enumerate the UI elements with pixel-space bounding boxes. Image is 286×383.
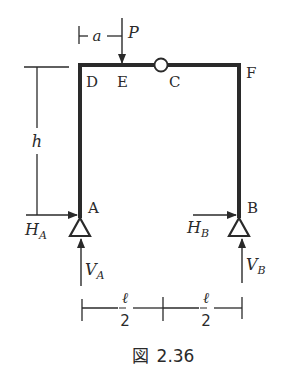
load-p-label: P xyxy=(127,23,139,42)
dim-span-den-left: 2 xyxy=(120,312,130,330)
dim-span-num-right: ℓ xyxy=(203,289,209,307)
caption-prefix: 図 xyxy=(132,346,149,366)
point-b-label: B xyxy=(247,199,258,217)
hinge-c-icon xyxy=(155,59,168,72)
reaction-ha-label: HA xyxy=(24,220,47,242)
pin-support-a-icon xyxy=(70,218,90,236)
pin-support-b-icon xyxy=(229,218,249,236)
point-d-label: D xyxy=(86,73,98,91)
figure-caption: 図2.36 xyxy=(132,346,195,366)
dim-a-label: a xyxy=(93,27,102,45)
point-c-label: C xyxy=(169,73,180,91)
load-p: a P xyxy=(79,18,139,63)
reaction-va-label: VA xyxy=(85,260,105,282)
dim-span-den-right: 2 xyxy=(201,312,211,330)
reaction-hb-label: HB xyxy=(186,218,209,240)
reaction-vb-label: VB xyxy=(246,255,266,277)
caption-number: 2.36 xyxy=(157,346,195,366)
dim-span xyxy=(82,297,242,321)
frame xyxy=(80,65,239,216)
point-e-label: E xyxy=(117,73,128,91)
point-a-label: A xyxy=(87,199,99,217)
dim-h-label: h xyxy=(32,132,42,151)
dim-h xyxy=(24,67,69,215)
three-hinged-frame-diagram: a P D E C F A B h HA HB VA VB ℓ 2 ℓ 2 図2… xyxy=(0,0,286,383)
point-f-label: F xyxy=(246,64,256,82)
dim-span-num-left: ℓ xyxy=(122,289,128,307)
